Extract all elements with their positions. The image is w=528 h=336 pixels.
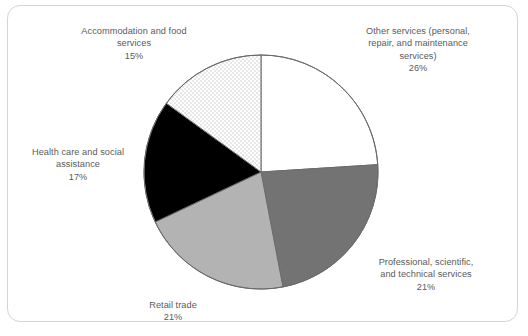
pie-label-retail-trade-name: Retail trade (149, 300, 197, 310)
pie-label-professional: Professional, scientific, and technical … (350, 244, 502, 305)
pie-chart-figure: Accommodation and food services 15% Othe… (0, 0, 528, 336)
pie-label-accommodation-name: Accommodation and food services (81, 26, 186, 48)
pie-label-health-care-name: Health care and social assistance (32, 147, 124, 169)
pie-label-health-care-percent: 17% (6, 171, 150, 183)
pie-label-professional-name: Professional, scientific, and technical … (379, 257, 474, 279)
pie-label-other-services-percent: 26% (330, 62, 506, 74)
chart-plot-area: Accommodation and food services 15% Othe… (0, 0, 528, 336)
pie-label-professional-percent: 21% (350, 281, 502, 293)
pie-label-other-services-name: Other services (personal, repair, and ma… (366, 26, 470, 60)
pie-label-accommodation-percent: 15% (52, 50, 216, 62)
pie-label-other-services: Other services (personal, repair, and ma… (330, 13, 506, 86)
pie-label-retail-trade-percent: 21% (112, 311, 234, 323)
pie-label-health-care: Health care and social assistance 17% (6, 134, 150, 195)
pie-label-retail-trade: Retail trade 21% (112, 287, 234, 336)
pie-label-accommodation: Accommodation and food services 15% (52, 13, 216, 74)
